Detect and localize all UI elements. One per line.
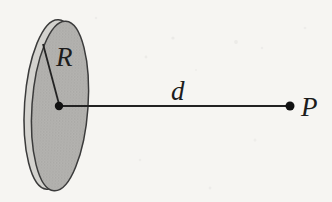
point-p-dot (286, 102, 295, 111)
disk-distance-diagram: R d P (0, 0, 332, 202)
distance-label: d (171, 76, 185, 106)
figure-canvas: R d P (0, 0, 332, 202)
scan-noise (95, 17, 307, 190)
radius-label: R (55, 42, 73, 72)
disk-center-dot (55, 102, 63, 110)
point-label: P (300, 92, 318, 122)
